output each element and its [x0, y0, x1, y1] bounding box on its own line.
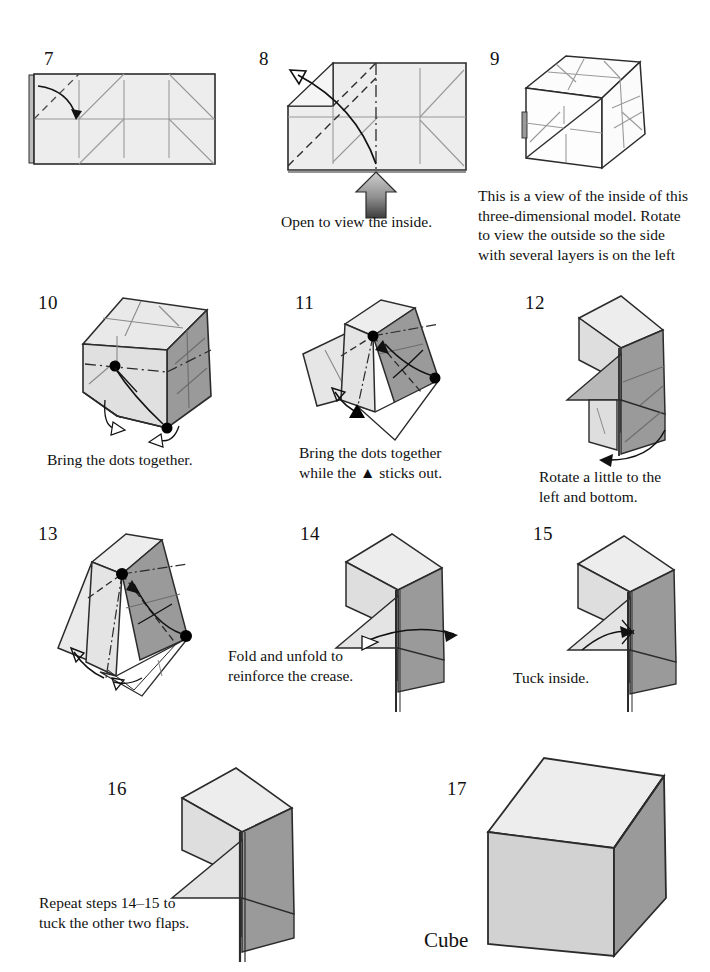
- step-number-16: 16: [107, 778, 127, 800]
- caption-step-16: Repeat steps 14–15 to tuck the other two…: [39, 893, 189, 932]
- figure-step-16: [150, 754, 340, 969]
- caption-step-11: Bring the dots together while the ▲ stic…: [299, 443, 442, 482]
- figure-step-17: [480, 748, 680, 963]
- figure-step-13: [30, 520, 240, 700]
- step-number-12: 12: [525, 292, 545, 314]
- caption-step-8: Open to view the inside.: [281, 212, 432, 232]
- caption-step-10: Bring the dots together.: [47, 450, 193, 470]
- figure-step-12: [545, 290, 695, 470]
- figure-step-7: [28, 72, 218, 168]
- figure-step-14: [320, 524, 490, 714]
- caption-step-14: Fold and unfold to reinforce the crease.: [228, 646, 353, 685]
- step-number-9: 9: [490, 48, 500, 70]
- caption-step-9: This is a view of the inside of this thr…: [478, 186, 688, 264]
- figure-step-11: [295, 292, 485, 442]
- step-number-17: 17: [447, 778, 467, 800]
- figure-step-8: [268, 58, 478, 198]
- figure-step-10: [55, 288, 245, 448]
- step-number-7: 7: [44, 48, 54, 70]
- figure-step-9: [508, 50, 668, 185]
- step-number-14: 14: [300, 523, 320, 545]
- model-name-label: Cube: [424, 928, 468, 953]
- caption-step-12: Rotate a little to the left and bottom.: [539, 467, 661, 506]
- origami-instruction-page: 7 8: [0, 0, 710, 972]
- caption-step-15: Tuck inside.: [513, 668, 589, 688]
